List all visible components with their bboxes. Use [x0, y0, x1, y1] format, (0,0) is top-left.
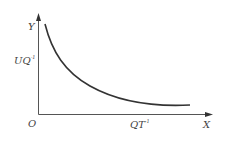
chart-canvas: Y X O UQ-1 QT-1 — [0, 0, 227, 142]
y-axis-label: Y — [28, 21, 36, 32]
x-tick-superscript: -1 — [145, 118, 150, 124]
origin-label: O — [28, 118, 36, 129]
y-axis-arrow-icon — [36, 13, 41, 21]
x-tick-label: QT-1 — [130, 118, 150, 130]
y-tick-label: UQ-1 — [14, 54, 36, 66]
curve-line — [45, 24, 190, 105]
x-axis-arrow-icon — [205, 112, 213, 117]
x-axis-label: X — [202, 119, 211, 130]
y-tick-superscript: -1 — [31, 54, 36, 60]
